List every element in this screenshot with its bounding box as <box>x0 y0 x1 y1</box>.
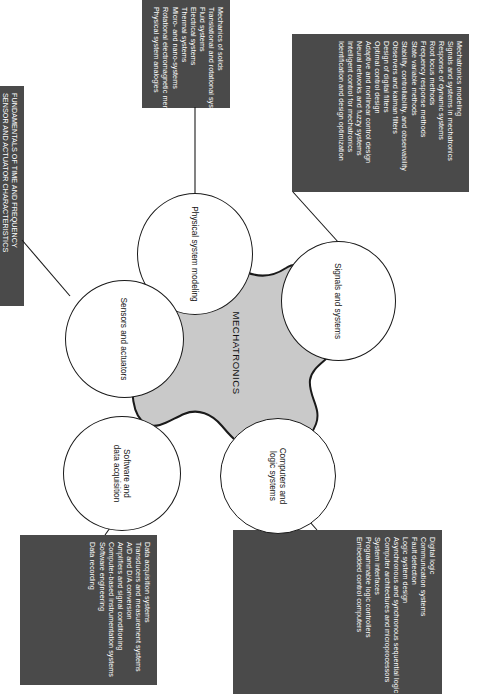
node-sensors-and-actuators-label: Sensors and actuators <box>120 297 130 380</box>
node-physical-system-modeling-label: Physical system modeling <box>190 206 200 301</box>
connector-sensors-and-actuators <box>22 240 70 296</box>
node-computers-and-logic-systems-label: Computers andlogic systems <box>268 448 288 505</box>
node-sensors-and-actuators[interactable]: Sensors and actuators <box>65 280 184 398</box>
connector-signals-and-systems <box>293 192 339 243</box>
mechatronics-concept-map: MECHATRONICS Physical system modeling Si… <box>0 0 479 694</box>
node-signals-and-systems[interactable]: Signals and systems <box>281 241 396 361</box>
node-computers-and-logic-systems[interactable]: Computers andlogic systems <box>220 418 336 534</box>
node-software-and-data-acquisition[interactable]: Software anddata acquisition <box>63 416 181 531</box>
node-software-and-data-acquisition-label: Software anddata acquisition <box>112 445 132 503</box>
node-signals-and-systems-label: Signals and systems <box>334 263 344 339</box>
